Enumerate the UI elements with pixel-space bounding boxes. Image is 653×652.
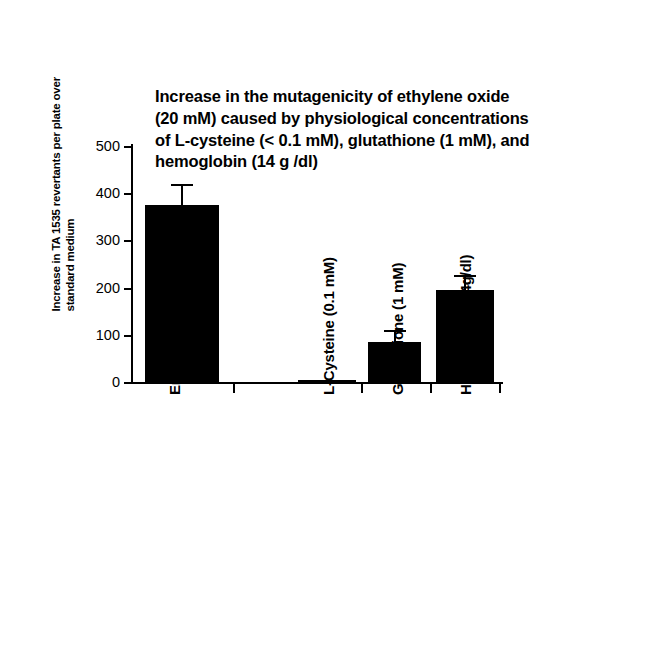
y-tick-mark: [124, 146, 132, 148]
y-tick-label: 500: [96, 138, 120, 154]
x-tick-mark: [430, 382, 432, 393]
error-bar-stem: [181, 186, 183, 205]
y-tick-label: 200: [96, 280, 120, 296]
chart-title-line-2: (20 mM) caused by physiological concentr…: [155, 108, 625, 130]
error-bar-cap: [171, 184, 193, 186]
y-tick-label: 100: [96, 327, 120, 343]
y-tick-mark: [124, 288, 132, 290]
y-axis-title-line-2: standard medium: [65, 30, 77, 312]
y-axis-title: Increase in TA 1535 revertants per plate…: [42, 18, 92, 318]
x-axis-label: Erythrocyte homogenate: [166, 223, 183, 395]
y-axis-title-line-1: Increase in TA 1535 revertants per plate…: [51, 30, 63, 312]
x-tick-mark: [361, 382, 363, 393]
x-axis-label: L-Cysteine (0.1 mM): [320, 257, 337, 395]
plot-area: 5004003002001000: [131, 146, 501, 382]
y-tick-label: 0: [112, 374, 120, 390]
x-axis-label: Glutathione (1 mM): [389, 263, 406, 395]
y-tick-mark: [124, 335, 132, 337]
x-tick-mark: [233, 382, 235, 393]
y-tick-label: 300: [96, 232, 120, 248]
y-tick-mark: [124, 382, 132, 384]
bar-chart-figure: Increase in TA 1535 revertants per plate…: [0, 0, 653, 652]
y-tick-mark: [124, 193, 132, 195]
x-tick-mark: [499, 382, 501, 393]
chart-title-line-1: Increase in the mutagenicity of ethylene…: [155, 86, 625, 108]
y-tick-mark: [124, 240, 132, 242]
x-axis-label: Hemoglobin (14g/dl): [457, 255, 474, 395]
y-axis-line: [131, 144, 133, 384]
x-axis-line: [131, 382, 503, 384]
y-tick-label: 400: [96, 185, 120, 201]
